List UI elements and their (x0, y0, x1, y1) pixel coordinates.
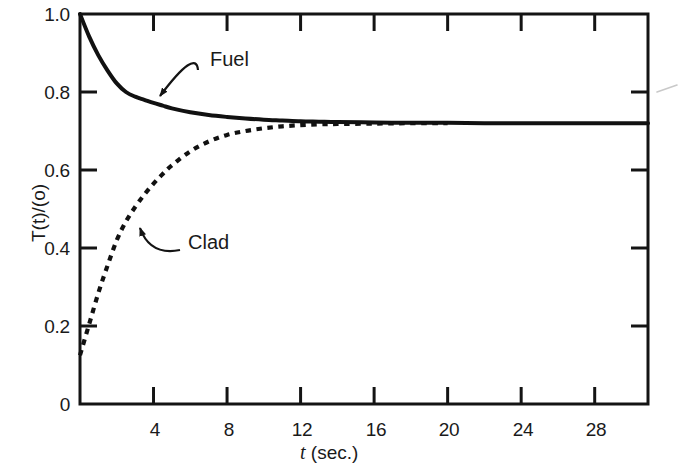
annotation-arrows-layer (140, 63, 198, 251)
data-series-layer (80, 14, 648, 355)
x-tick-label-12: 12 (278, 419, 326, 441)
y-tick-label-0: 0 (10, 394, 70, 416)
y-axis-ticks-left (80, 92, 97, 326)
x-tick-label-4: 4 (131, 419, 179, 441)
series-curve-fuel (80, 14, 648, 123)
x-tick-label-20: 20 (425, 419, 473, 441)
x-tick-label-8: 8 (205, 419, 253, 441)
x-tick-label-24: 24 (499, 419, 547, 441)
y-tick-label-0.6: 0.6 (10, 160, 70, 182)
x-tick-label-16: 16 (352, 419, 400, 441)
x-axis-title-units: (sec.) (306, 442, 359, 463)
y-axis-ticks-right (631, 92, 648, 326)
y-axis-title: T(t)/(o) (28, 184, 50, 242)
chart-plot-area (0, 0, 684, 465)
axis-frame (80, 14, 648, 404)
x-axis-title: t (sec.) (300, 441, 358, 464)
y-tick-label-0.2: 0.2 (10, 316, 70, 338)
x-axis-ticks-top (154, 14, 595, 31)
annotation-arrow-fuel (160, 63, 198, 96)
y-tick-label-1.0: 1.0 (10, 4, 70, 26)
y-tick-label-0.8: 0.8 (10, 82, 70, 104)
x-axis-ticks-bottom (154, 387, 595, 404)
annotation-label-fuel: Fuel (210, 48, 249, 71)
series-curve-clad (80, 123, 448, 355)
annotation-label-clad: Clad (188, 231, 229, 254)
figure-container: 1.0 0.8 0.6 0.4 0.2 0 4 8 12 16 20 24 28… (0, 0, 684, 465)
annotation-arrow-clad (140, 228, 180, 251)
x-tick-label-28: 28 (572, 419, 620, 441)
